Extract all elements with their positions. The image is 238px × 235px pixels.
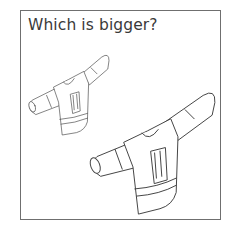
question-text: Which is bigger? <box>28 16 158 34</box>
big-jersey-icon[interactable] <box>88 90 223 215</box>
